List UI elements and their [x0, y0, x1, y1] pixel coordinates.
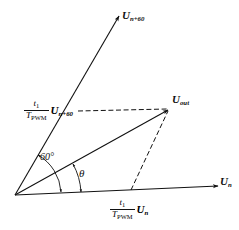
fraction-t1-over-tpwm-un60: t1 TPWM	[24, 99, 49, 122]
label-axis-un: Un	[220, 176, 232, 189]
fraction-numerator: t1	[31, 99, 41, 110]
label-vector-uout-subscript: out	[180, 99, 189, 106]
label-angle-60: 60°	[40, 152, 54, 162]
label-vector-uout: Uout	[172, 94, 189, 107]
dashed-parallel-un60	[131, 111, 168, 190]
fraction-denominator: TPWM	[24, 111, 49, 122]
coefficient-un-symbol: U	[137, 203, 145, 215]
fraction-numerator: t1	[117, 198, 127, 209]
label-angle-theta: θ	[79, 168, 84, 179]
vector-un-axis-line	[15, 186, 218, 195]
label-axis-un-subscript: n	[228, 181, 232, 188]
label-vector-un60-symbol: U	[122, 9, 130, 21]
label-vector-uout-symbol: U	[172, 93, 180, 105]
fraction-numerator-subscript: 1	[36, 102, 39, 109]
svpwm-vector-diagram: Un+60 Uout Un 60° θ t1 TPWM Un+60 t1 TPW…	[0, 0, 239, 230]
fraction-numerator-subscript: 1	[122, 201, 125, 208]
coefficient-un60-subscript: n+60	[59, 110, 73, 117]
fraction-denominator: TPWM	[110, 210, 135, 221]
fraction-denominator-subscript: PWM	[31, 114, 47, 121]
fraction-t1-over-tpwm-un: t1 TPWM	[110, 198, 135, 221]
coefficient-un60-symbol: U	[51, 104, 59, 116]
label-axis-un-symbol: U	[220, 175, 228, 187]
label-coefficient-un60: t1 TPWM Un+60	[24, 99, 73, 122]
label-vector-un60: Un+60	[122, 10, 144, 23]
label-coefficient-un: t1 TPWM Un	[110, 198, 148, 221]
dashed-parallel-un	[78, 109, 167, 111]
coefficient-un-subscript: n	[145, 209, 149, 216]
coefficient-un-vector: Un	[137, 203, 149, 216]
vector-uout-line	[15, 110, 168, 195]
label-vector-un60-subscript: n+60	[130, 15, 144, 22]
fraction-denominator-subscript: PWM	[117, 213, 133, 220]
coefficient-un60-vector: Un+60	[51, 104, 73, 117]
